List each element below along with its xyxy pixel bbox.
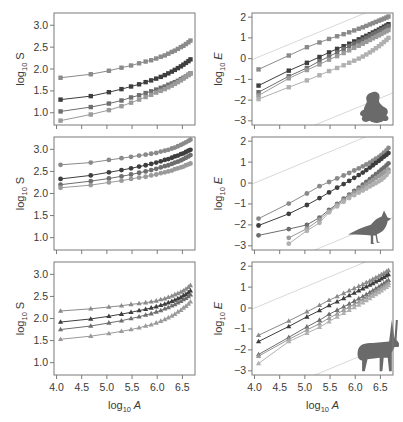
square-marker — [287, 53, 291, 57]
y-tick-label: −1 — [234, 322, 246, 334]
circle-marker — [335, 204, 340, 209]
square-marker — [154, 76, 158, 80]
panel-bird-E: −3−2−1012log10 E — [212, 125, 393, 276]
y-tick-label: 0 — [240, 177, 246, 189]
circle-marker — [58, 162, 63, 167]
circle-marker — [352, 193, 357, 198]
square-marker — [143, 95, 147, 99]
square-marker — [58, 118, 62, 122]
square-marker — [188, 57, 192, 61]
circle-marker — [304, 228, 309, 233]
x-tick-label: 4.5 — [74, 381, 89, 393]
y-tick-label: −2 — [234, 94, 246, 106]
y-tick-label: 1.0 — [33, 356, 48, 368]
circle-marker — [188, 147, 193, 152]
square-marker — [317, 73, 321, 77]
x-tick-label: 4.0 — [49, 381, 64, 393]
circle-marker — [317, 184, 322, 189]
x-tick-label: 4.0 — [247, 381, 262, 393]
y-axis-label: log10 E — [212, 176, 227, 210]
x-axis-label: log10 A — [306, 399, 339, 414]
circle-marker — [154, 172, 159, 177]
circle-marker — [129, 166, 134, 171]
square-marker — [143, 80, 147, 84]
square-marker — [58, 109, 62, 113]
circle-marker — [137, 175, 142, 180]
circle-marker — [58, 177, 63, 182]
series-line — [61, 295, 191, 330]
circle-marker — [149, 173, 154, 178]
y-tick-label: −3 — [234, 364, 246, 376]
circle-marker — [286, 211, 291, 216]
circle-marker — [149, 151, 154, 156]
y-axis-label: log10 S — [14, 302, 29, 335]
circle-marker — [335, 185, 340, 190]
circle-marker — [106, 158, 111, 163]
y-tick-label: 3.0 — [33, 268, 48, 280]
square-marker — [335, 54, 339, 58]
circle-marker — [341, 173, 346, 178]
square-marker — [327, 37, 331, 41]
square-marker — [129, 95, 133, 99]
y-tick-label: 2 — [240, 260, 246, 272]
circle-marker — [327, 180, 332, 185]
series-line — [61, 59, 191, 99]
y-tick-label: 2.0 — [33, 312, 48, 324]
circle-marker — [256, 216, 261, 221]
y-tick-label: 2.5 — [33, 165, 48, 177]
y-tick-label: 1 — [240, 31, 246, 43]
square-marker — [154, 56, 158, 60]
x-tick-label: 6.5 — [175, 381, 190, 393]
y-tick-label: 1.0 — [33, 231, 48, 243]
circle-marker — [137, 153, 142, 158]
y-tick-label: 1 — [240, 156, 246, 168]
square-marker — [159, 55, 163, 59]
circle-marker — [286, 241, 291, 246]
square-marker — [188, 38, 192, 42]
panel-frog-E: −3−2−1012log10 E — [212, 2, 393, 151]
square-marker — [357, 56, 361, 60]
series-line — [259, 38, 389, 99]
square-marker — [341, 51, 345, 55]
square-marker — [149, 93, 153, 97]
y-tick-label: −2 — [234, 218, 246, 230]
y-tick-label: −2 — [234, 343, 246, 355]
y-axis-label: log10 S — [14, 52, 29, 85]
circle-marker — [341, 199, 346, 204]
circle-marker — [119, 174, 124, 179]
circle-marker — [143, 163, 148, 168]
square-marker — [58, 76, 62, 80]
square-marker — [341, 63, 345, 67]
circle-marker — [137, 170, 142, 175]
square-marker — [352, 28, 356, 32]
circle-marker — [327, 190, 332, 195]
square-marker — [107, 90, 111, 94]
bird-silhouette-icon — [348, 210, 391, 244]
y-tick-label: 2.5 — [33, 290, 48, 302]
square-marker — [305, 61, 309, 65]
square-marker — [149, 58, 153, 62]
y-axis-label: log10 E — [212, 52, 227, 86]
square-marker — [305, 78, 309, 82]
triangle-marker — [256, 361, 261, 366]
circle-marker — [119, 168, 124, 173]
square-marker — [159, 89, 163, 93]
square-marker — [386, 24, 390, 28]
square-marker — [317, 40, 321, 44]
circle-marker — [154, 166, 159, 171]
square-marker — [129, 63, 133, 67]
x-tick-label: 5.0 — [100, 381, 115, 393]
panel-frog-S: 1.01.52.02.53.0log10 S — [14, 13, 195, 129]
circle-marker — [347, 179, 352, 184]
y-tick-label: 1 — [240, 281, 246, 293]
square-marker — [341, 47, 345, 51]
square-marker — [327, 69, 331, 73]
y-tick-label: −3 — [234, 239, 246, 251]
circle-marker — [286, 227, 291, 232]
square-marker — [129, 84, 133, 88]
circle-marker — [188, 153, 193, 158]
square-marker — [256, 83, 260, 87]
circle-marker — [119, 156, 124, 161]
circle-marker — [88, 160, 93, 165]
y-tick-label: 2.0 — [33, 187, 48, 199]
